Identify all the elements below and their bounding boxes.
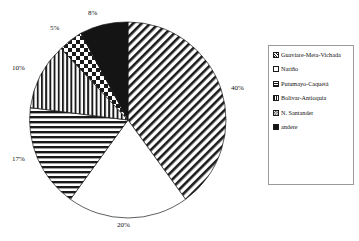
slice-label-n-santander: 5%: [50, 24, 59, 32]
slice-label-narino: 20%: [117, 221, 130, 229]
legend-swatch-diagonal-stripes-icon: [273, 52, 279, 58]
legend-label: Nariño: [281, 65, 298, 72]
legend-item-guaviare-meta-vichada: Guaviare-Meta-Vichada: [273, 51, 350, 58]
legend-label: N. Santander: [281, 109, 313, 116]
legend-item-n-santander: N. Santander: [273, 109, 350, 116]
slice-label-putumayo-caqueta: 17%: [12, 155, 25, 163]
pie-plot-area: [20, 16, 240, 226]
legend-swatch-solid-black-icon: [273, 124, 279, 130]
pie-svg: [20, 16, 240, 226]
pie-chart: 40% 20% 17% 10% 5% 8% Guaviare-Meta-Vich…: [0, 0, 359, 241]
legend-item-andere: andere: [273, 123, 350, 130]
chart-legend: Guaviare-Meta-Vichada Nariño Putumayo-Ca…: [268, 45, 354, 185]
legend-swatch-checkerboard-icon: [273, 110, 279, 116]
slice-label-guaviare-meta-vichada: 40%: [231, 84, 244, 92]
legend-label: Guaviare-Meta-Vichada: [281, 51, 341, 58]
slice-label-bolivar-antioquia: 10%: [12, 64, 25, 72]
legend-item-putumayo-caqueta: Putumayo-Caquetá: [273, 80, 350, 87]
legend-label: Putumayo-Caquetá: [281, 80, 328, 87]
legend-swatch-vertical-stripes-icon: [273, 95, 279, 101]
legend-label: andere: [281, 123, 298, 130]
legend-swatch-horizontal-stripes-icon: [273, 81, 279, 87]
legend-label: Bolivar-Antioquia: [281, 94, 326, 101]
legend-item-bolivar-antioquia: Bolivar-Antioquia: [273, 94, 350, 101]
slice-label-andere: 8%: [88, 9, 97, 17]
legend-swatch-solid-white-icon: [273, 66, 279, 72]
legend-item-narino: Nariño: [273, 65, 350, 72]
